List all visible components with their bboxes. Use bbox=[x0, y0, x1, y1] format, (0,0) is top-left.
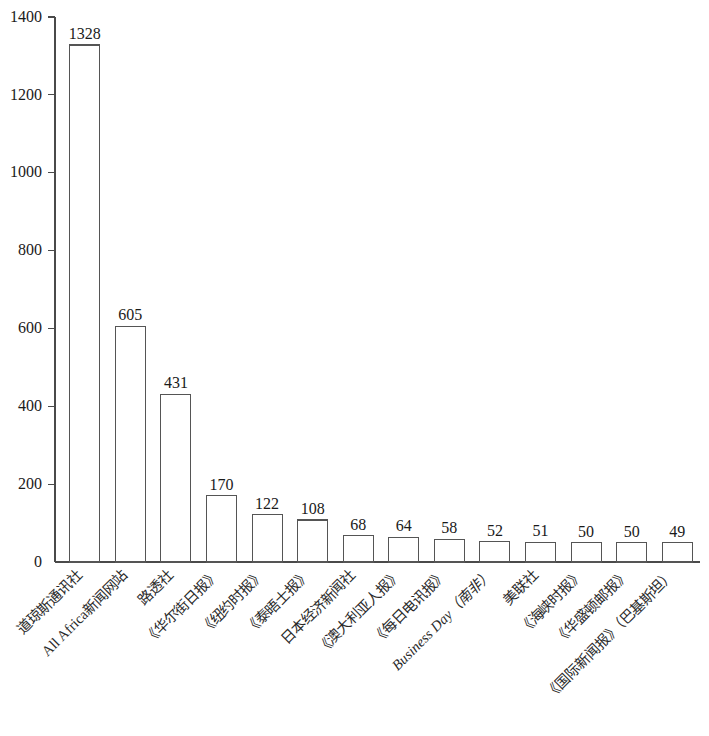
bar bbox=[526, 542, 556, 562]
bar bbox=[161, 394, 191, 562]
bar bbox=[617, 543, 647, 562]
bar bbox=[252, 515, 282, 562]
y-tick-label: 400 bbox=[18, 397, 42, 414]
x-category-label: 美联社 bbox=[500, 567, 541, 608]
y-tick-label: 0 bbox=[34, 553, 42, 570]
bar bbox=[662, 543, 692, 562]
bar-value-label: 108 bbox=[301, 500, 325, 517]
bar-value-label: 50 bbox=[578, 523, 594, 540]
category-labels-group: 道琼斯通讯社All Africa新闻网站路透社《华尔街日报》《纽约时报》《泰晤士… bbox=[14, 567, 677, 702]
bar bbox=[480, 542, 510, 562]
bar-value-label: 50 bbox=[624, 523, 640, 540]
x-category-label: All Africa新闻网站 bbox=[38, 567, 130, 659]
bar bbox=[389, 537, 419, 562]
bar-value-label: 64 bbox=[396, 517, 412, 534]
chart-canvas: 0200400600800100012001400 13286054311701… bbox=[0, 0, 709, 736]
bar-value-label: 122 bbox=[255, 495, 279, 512]
bar bbox=[70, 45, 100, 562]
bar bbox=[298, 520, 328, 562]
y-tick-label: 1200 bbox=[10, 86, 42, 103]
x-category-label: 《澳大利亚人报》 bbox=[313, 567, 404, 658]
bar-value-label: 1328 bbox=[69, 25, 101, 42]
y-tick-label: 800 bbox=[18, 241, 42, 258]
bars-group bbox=[70, 45, 692, 562]
bar-value-label: 52 bbox=[487, 522, 503, 539]
bar bbox=[571, 543, 601, 562]
bar-chart: 0200400600800100012001400 13286054311701… bbox=[0, 0, 709, 736]
y-tick-label: 1400 bbox=[10, 8, 42, 25]
bar bbox=[207, 496, 237, 562]
bar-value-label: 51 bbox=[533, 522, 549, 539]
bar-value-label: 170 bbox=[210, 476, 234, 493]
bar-value-label: 49 bbox=[669, 523, 685, 540]
bar bbox=[115, 326, 145, 562]
x-category-label: 路透社 bbox=[135, 567, 176, 608]
y-tick-label: 600 bbox=[18, 319, 42, 336]
y-axis: 0200400600800100012001400 bbox=[10, 8, 55, 570]
bar-value-label: 58 bbox=[441, 519, 457, 536]
y-tick-label: 1000 bbox=[10, 163, 42, 180]
bar bbox=[434, 539, 464, 562]
bar-value-label: 68 bbox=[350, 516, 366, 533]
bar-value-label: 431 bbox=[164, 374, 188, 391]
bar-value-label: 605 bbox=[118, 306, 142, 323]
bar bbox=[343, 536, 373, 562]
y-tick-label: 200 bbox=[18, 475, 42, 492]
